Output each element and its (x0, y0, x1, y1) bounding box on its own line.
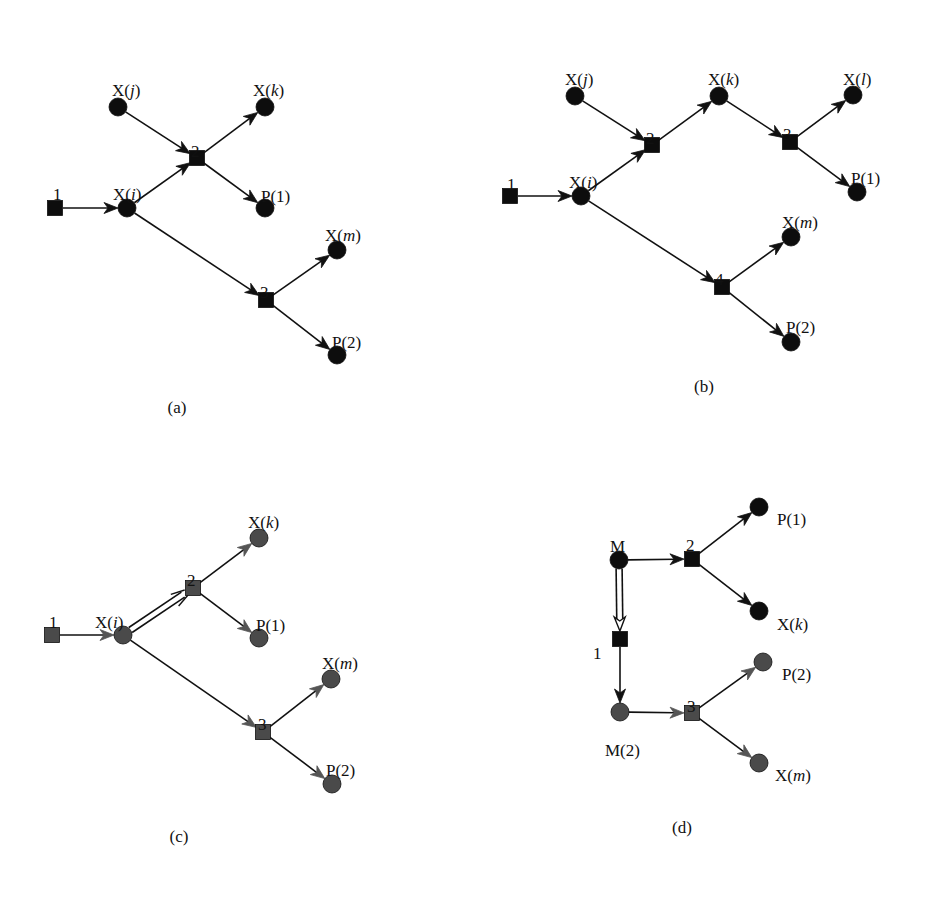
arrowhead-icon (631, 150, 646, 163)
arrowhead-icon (737, 513, 751, 526)
node-label: X(i) (569, 173, 597, 192)
arrowhead-icon (741, 667, 756, 680)
reaction-node-r4: 4 (715, 270, 730, 295)
node-label: 4 (715, 270, 724, 289)
edge-r3-to-P2 (272, 305, 330, 350)
arrowhead-icon (315, 255, 330, 268)
node-label: 3 (783, 125, 792, 144)
species-node-Xl: X(l) (843, 70, 871, 104)
edge-r4-to-P2 (728, 292, 784, 336)
reaction-node-r1: 1 (593, 632, 628, 664)
panel-a: 1X(i)X(j)2X(k)P(1)3X(m)P(2)(a) (48, 81, 362, 417)
species-node-P2: P(2) (782, 318, 815, 351)
circle-icon (710, 87, 728, 105)
node-label: P(1) (261, 187, 290, 206)
species-node-M: M (610, 537, 628, 569)
edge-M-to-r1 (614, 569, 625, 631)
species-node-Xj: X(j) (565, 70, 593, 105)
node-label: X(k) (253, 81, 284, 100)
arrowhead-icon (176, 141, 191, 153)
node-label: M(2) (605, 741, 640, 760)
node-label: P(1) (256, 616, 285, 635)
arrowhead-icon (701, 270, 716, 282)
node-label: X(i) (95, 613, 123, 632)
circle-icon (109, 98, 127, 116)
edge-Xj-to-r2 (126, 112, 191, 154)
edge-r2-to-Xk (203, 112, 257, 153)
species-node-Xk: X(k) (750, 602, 808, 634)
arrowhead-icon (310, 766, 324, 779)
node-label: X(k) (777, 615, 808, 634)
node-label: X(m) (782, 213, 818, 232)
reaction-node-r2: 2 (645, 129, 660, 153)
species-node-Xk: X(k) (708, 70, 739, 105)
panel-caption-a: (a) (168, 398, 187, 417)
edge-r2-to-Xk (658, 101, 711, 140)
node-label: P(2) (786, 318, 815, 337)
edge-Xi-to-r3 (135, 213, 260, 296)
node-label: 1 (49, 613, 58, 632)
species-node-P1: P(1) (848, 169, 880, 201)
reaction-node-r1: 1 (48, 185, 63, 216)
reaction-node-r2: 2 (190, 142, 205, 166)
node-label: 3 (687, 697, 696, 716)
species-node-Xj: X(j) (109, 81, 140, 116)
edge-r2-to-Xk (199, 543, 251, 583)
species-node-P1: P(1) (750, 498, 806, 529)
arrowhead-icon (614, 617, 625, 631)
reaction-node-r2: 2 (685, 536, 700, 567)
species-node-Xm: X(m) (782, 213, 818, 246)
species-node-Xk: X(k) (253, 81, 284, 116)
reaction-node-r3: 3 (685, 697, 700, 721)
node-label: X(m) (775, 766, 811, 785)
panel-c: 1X(i)2X(k)P(1)3X(m)P(2)(c) (45, 513, 358, 846)
species-node-Xi: X(i) (569, 173, 597, 205)
edge-r2-to-P1 (199, 593, 251, 633)
node-label: 1 (593, 644, 602, 663)
node-label: 2 (686, 536, 695, 555)
node-label: X(l) (843, 70, 871, 89)
species-node-P2: P(2) (328, 333, 361, 364)
arrowhead-icon (630, 129, 645, 141)
node-label: 2 (191, 142, 200, 161)
arrowhead-icon (245, 283, 260, 295)
node-label: X(i) (113, 185, 141, 204)
node-label: X(m) (325, 226, 361, 245)
arrowhead-icon (309, 685, 323, 698)
arrowhead-icon (237, 620, 251, 633)
arrowhead-icon (737, 745, 752, 758)
species-node-P2: P(2) (754, 653, 811, 684)
edge-r1-to-Xi (63, 203, 118, 214)
node-label: 1 (53, 185, 62, 204)
panel-d: M2P(1)X(k)1M(2)3P(2)X(m)(d) (593, 498, 811, 837)
edge-Xi-to-r4 (589, 201, 716, 283)
reaction-node-r3: 3 (783, 125, 798, 150)
panel-b: 1X(i)X(j)2X(k)3X(l)P(1)4X(m)P(2)(b) (503, 70, 881, 396)
edge-Xi-to-r3 (130, 640, 256, 727)
species-node-Xk: X(k) (248, 513, 279, 547)
arrowhead-icon (770, 323, 784, 336)
edge-Xi-to-r2 (134, 163, 190, 203)
panel-caption-c: (c) (170, 827, 189, 846)
edge-r4-to-Xm (728, 242, 783, 282)
reaction-node-r3: 3 (256, 715, 271, 740)
circle-icon (750, 602, 768, 620)
node-label: P(2) (332, 333, 361, 352)
node-label: X(m) (322, 654, 358, 673)
edge-r1-to-Xi (518, 191, 572, 202)
circle-icon (754, 653, 772, 671)
edge-r2-to-Xk (698, 564, 752, 606)
node-label: P(2) (782, 665, 811, 684)
node-label: X(k) (248, 513, 279, 532)
arrowhead-icon (243, 190, 258, 203)
edge-r3-to-Xm (269, 685, 324, 728)
edge-r3-to-Xm (698, 718, 751, 758)
circle-icon (750, 754, 768, 772)
species-node-Xm: X(m) (325, 226, 361, 259)
edge-M-to-r2 (628, 554, 684, 565)
arrowhead-icon (315, 337, 329, 350)
circle-icon (611, 703, 629, 721)
node-label: M (610, 537, 625, 556)
circle-icon (750, 498, 768, 516)
node-label: 2 (646, 129, 655, 148)
